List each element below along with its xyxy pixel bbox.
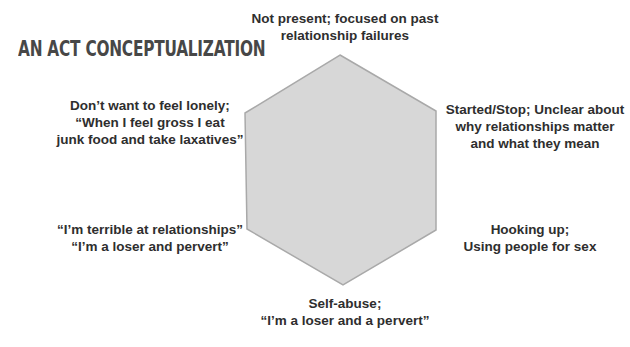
label-bottom-self-as-context: Self-abuse; “I’m a loser and a pervert” — [240, 295, 450, 329]
label-lower-right-committed-action: Hooking up; Using people for sex — [450, 221, 610, 255]
label-line: “I’m a loser and a pervert” — [240, 312, 450, 329]
label-line: “When I feel gross I eat — [40, 114, 260, 131]
label-line: “I’m terrible at relationships” — [50, 221, 250, 238]
label-line: Not present; focused on past — [240, 10, 450, 27]
label-upper-right-values: Started/Stop; Unclear about why relation… — [440, 101, 630, 152]
label-line: relationship failures — [240, 27, 450, 44]
label-line: and what they mean — [440, 135, 630, 152]
label-line: Using people for sex — [450, 238, 610, 255]
label-line: “I’m a loser and pervert” — [50, 238, 250, 255]
label-line: Don’t want to feel lonely; — [40, 97, 260, 114]
label-line: Started/Stop; Unclear about — [440, 101, 630, 118]
label-line: Self-abuse; — [240, 295, 450, 312]
label-line: junk food and take laxatives” — [40, 131, 260, 148]
label-top-present-moment: Not present; focused on past relationshi… — [240, 10, 450, 44]
label-upper-left-acceptance: Don’t want to feel lonely; “When I feel … — [40, 97, 260, 148]
hexagon-shape — [245, 55, 436, 285]
label-lower-left-defusion: “I’m terrible at relationships” “I’m a l… — [50, 221, 250, 255]
label-line: Hooking up; — [450, 221, 610, 238]
label-line: why relationships matter — [440, 118, 630, 135]
